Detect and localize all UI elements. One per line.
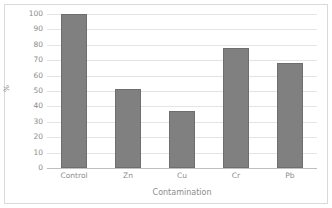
bar-slot xyxy=(155,14,209,168)
bar-slot xyxy=(209,14,263,168)
x-axis-tick-label: Pb xyxy=(263,171,317,180)
y-axis-title: % xyxy=(2,77,11,101)
bar[interactable] xyxy=(115,89,141,168)
bar-slot xyxy=(47,14,101,168)
x-axis-tick-label: Zn xyxy=(101,171,155,180)
bar[interactable] xyxy=(223,48,249,168)
y-axis-tick-label: 70 xyxy=(3,56,43,64)
x-axis-line xyxy=(47,168,317,169)
bar[interactable] xyxy=(61,14,87,168)
x-axis-tick-label: Cr xyxy=(209,171,263,180)
x-axis-tick-label: Control xyxy=(47,171,101,180)
bar[interactable] xyxy=(169,111,195,168)
y-axis-tick-label: 30 xyxy=(3,118,43,126)
bar-slot xyxy=(101,14,155,168)
y-axis-tick-label: 10 xyxy=(3,149,43,157)
bar-slot xyxy=(263,14,317,168)
bar[interactable] xyxy=(277,63,303,168)
y-axis-tick-label: 90 xyxy=(3,25,43,33)
x-axis-tick-labels: ControlZnCuCrPb xyxy=(47,171,317,180)
y-axis-tick-label: 20 xyxy=(3,133,43,141)
x-axis-tick-label: Cu xyxy=(155,171,209,180)
bar-series xyxy=(47,14,317,168)
y-axis-tick-label: 100 xyxy=(3,10,43,18)
plot-area xyxy=(47,14,317,168)
bar-chart-figure: 1009080706050403020100 % ControlZnCuCrPb… xyxy=(0,0,332,208)
x-axis-title: Contamination xyxy=(47,188,317,197)
y-axis-tick-label: 40 xyxy=(3,102,43,110)
y-axis-tick-label: 80 xyxy=(3,41,43,49)
y-axis-tick-label: 0 xyxy=(3,164,43,172)
